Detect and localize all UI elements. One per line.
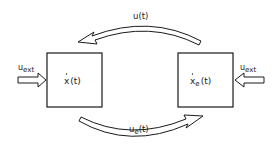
coupling-arrow-u xyxy=(78,26,201,45)
coupling-label-u: u(t) xyxy=(133,11,148,21)
coupled-system-diagram: x(t) xe(t) uext uext u(t) ue(t) xyxy=(0,0,278,148)
system-state-label: x(t) xyxy=(64,76,81,86)
system-external-input-label: uext xyxy=(18,63,34,74)
environment-state-label: xe(t) xyxy=(190,76,211,88)
environment-state-dot xyxy=(192,73,193,74)
environment-external-input-arrow xyxy=(235,73,264,87)
environment-external-input-label: uext xyxy=(240,63,256,74)
system-state-dot xyxy=(66,73,67,74)
system-external-input-arrow xyxy=(18,73,46,87)
